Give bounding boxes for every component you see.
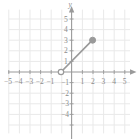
y-tick-label-2: 2 bbox=[64, 47, 68, 55]
x-tick-label--2: −2 bbox=[36, 78, 44, 86]
open-endpoint-marker bbox=[58, 69, 63, 74]
y-tick-label-3: 3 bbox=[64, 37, 68, 45]
x-tick-label-2: 2 bbox=[91, 78, 95, 86]
x-tick-label--5: −5 bbox=[4, 78, 12, 86]
y-tick-label-5: 5 bbox=[64, 16, 68, 24]
y-tick-label-4: 4 bbox=[64, 26, 68, 34]
y-axis-label: y bbox=[69, 1, 72, 9]
x-tick-label--4: −4 bbox=[15, 78, 23, 86]
y-tick-label--1: −1 bbox=[61, 79, 69, 87]
plot-area bbox=[0, 0, 140, 139]
x-tick-label-1: 1 bbox=[80, 78, 84, 86]
y-tick-label--2: −2 bbox=[61, 90, 69, 98]
closed-endpoint-marker bbox=[90, 37, 96, 43]
x-axis-arrowhead bbox=[130, 69, 137, 74]
y-tick-label--3: −3 bbox=[61, 100, 69, 108]
x-tick-label--1: −1 bbox=[46, 78, 54, 86]
x-tick-label-5: 5 bbox=[123, 78, 127, 86]
x-tick-label--3: −3 bbox=[25, 78, 33, 86]
y-tick-label--4: −4 bbox=[61, 111, 69, 119]
coordinate-plane-graph: −5 −4 −3 −2 −1 1 2 3 4 5 5 4 3 2 1 −1 −2… bbox=[0, 0, 140, 139]
y-tick-label-1: 1 bbox=[64, 58, 68, 66]
x-tick-label-3: 3 bbox=[102, 78, 106, 86]
x-tick-label-4: 4 bbox=[112, 78, 116, 86]
